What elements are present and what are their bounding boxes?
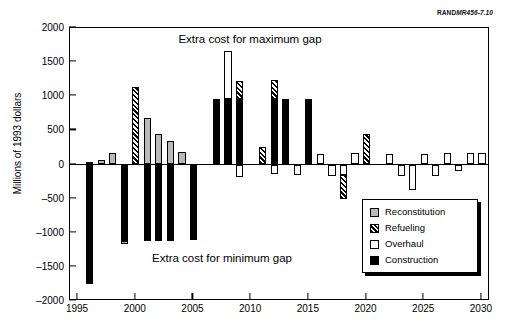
bar-segment-reconstitution xyxy=(167,141,174,165)
bar-segment-construction xyxy=(121,165,128,241)
bar-segment-overhaul xyxy=(317,154,324,164)
y-axis-tick-label: 1000 xyxy=(42,90,64,101)
bar-segment-construction xyxy=(271,99,278,165)
y-axis-tick-label: 0 xyxy=(58,158,64,169)
bar-segment-overhaul xyxy=(271,165,278,175)
y-axis-tick xyxy=(69,26,76,27)
annotation-minimum-gap: Extra cost for minimum gap xyxy=(152,252,292,264)
chart-figure: RANDMR456-7.10 –2000–1500–1000–500050010… xyxy=(0,0,511,331)
y-axis-tick xyxy=(69,61,76,62)
bar-segment-refueling xyxy=(132,87,139,164)
legend-label-construction: Construction xyxy=(385,255,438,265)
chart-legend: ReconstitutionRefuelingOverhaulConstruct… xyxy=(362,199,478,273)
bar-segment-refueling xyxy=(236,81,243,99)
legend-item-overhaul: Overhaul xyxy=(370,236,477,252)
bar-segment-overhaul xyxy=(351,153,358,165)
x-axis-tick-label: 2005 xyxy=(181,303,203,314)
bar-segment-construction xyxy=(155,165,162,241)
bar-segment-refueling xyxy=(259,147,266,164)
bar-segment-construction xyxy=(86,165,93,284)
x-axis-tick xyxy=(134,293,135,300)
x-axis-tick xyxy=(423,293,424,300)
legend-label-refueling: Refueling xyxy=(385,223,425,233)
bar-segment-overhaul xyxy=(432,165,439,177)
bar-segment-overhaul xyxy=(294,165,301,176)
bar-segment-overhaul xyxy=(398,165,405,177)
legend-swatch-overhaul xyxy=(370,240,379,249)
y-axis-tick-label: –500 xyxy=(42,192,64,203)
y-axis-tick xyxy=(69,129,76,130)
legend-label-overhaul: Overhaul xyxy=(385,239,424,249)
bar-segment-reconstitution xyxy=(109,153,116,165)
y-axis-tick xyxy=(69,265,76,266)
x-axis-tick-label: 2015 xyxy=(297,303,319,314)
x-axis-tick-label: 2025 xyxy=(412,303,434,314)
x-axis-tick xyxy=(250,293,251,300)
x-axis-tick xyxy=(192,293,193,300)
bar-segment-overhaul xyxy=(467,153,474,164)
x-axis-tick xyxy=(365,293,366,300)
bar-segment-overhaul xyxy=(478,153,485,165)
y-axis-tick xyxy=(69,95,76,96)
legend-label-reconstitution: Reconstitution xyxy=(385,207,445,217)
credit-rand: RAND xyxy=(437,9,456,16)
bar-segment-construction xyxy=(305,99,312,165)
x-axis-tick-label: 2030 xyxy=(470,303,492,314)
x-axis-tick-label: 2000 xyxy=(124,303,146,314)
y-axis-tick xyxy=(69,197,76,198)
y-axis-tick xyxy=(69,163,76,164)
legend-swatch-reconstitution xyxy=(370,208,379,217)
bar-segment-refueling xyxy=(340,175,347,199)
legend-item-refueling: Refueling xyxy=(370,220,477,236)
x-axis-tick xyxy=(76,293,77,300)
bar-segment-reconstitution xyxy=(178,152,185,165)
bar-segment-overhaul xyxy=(421,154,428,165)
x-axis-tick-label: 1995 xyxy=(66,303,88,314)
figure-credit: RANDMR456-7.10 xyxy=(437,9,493,16)
y-axis-tick-label: 500 xyxy=(47,124,64,135)
y-axis-labels: –2000–1500–1000–5000500100015002000 xyxy=(0,0,64,331)
bar-segment-construction xyxy=(282,99,289,164)
y-axis-tick xyxy=(69,231,76,232)
bar-segment-overhaul xyxy=(236,165,243,178)
annotation-maximum-gap: Extra cost for maximum gap xyxy=(178,33,321,45)
credit-number: MR456-7.10 xyxy=(456,9,493,16)
bar-segment-reconstitution xyxy=(155,134,162,165)
bar-segment-construction xyxy=(190,165,197,241)
y-axis-tick-label: 1500 xyxy=(42,56,64,67)
bar-segment-overhaul xyxy=(455,165,462,171)
bar-segment-overhaul xyxy=(224,51,231,99)
bar-segment-reconstitution xyxy=(98,160,105,164)
bar-segment-refueling xyxy=(271,80,278,99)
bar-segment-construction xyxy=(167,165,174,241)
bar-segment-overhaul xyxy=(328,165,335,177)
x-axis-tick xyxy=(307,293,308,300)
bar-segment-overhaul xyxy=(409,165,416,190)
bar-segment-construction xyxy=(224,99,231,164)
x-axis-tick xyxy=(480,293,481,300)
bar-segment-overhaul xyxy=(386,154,393,164)
legend-swatch-construction xyxy=(370,256,379,265)
x-axis-tick-label: 2020 xyxy=(354,303,376,314)
bar-segment-construction xyxy=(213,99,220,165)
y-axis-tick-label: –1500 xyxy=(36,260,64,271)
y-axis-tick xyxy=(69,299,76,300)
bar-segment-overhaul xyxy=(340,165,347,176)
y-axis-title: Millions of 1993 dollars xyxy=(12,44,23,244)
bar-segment-refueling xyxy=(363,134,370,164)
bar-segment-construction xyxy=(236,99,243,165)
legend-swatch-refueling xyxy=(370,224,379,233)
y-axis-tick-label: 2000 xyxy=(42,22,64,33)
bar-segment-overhaul xyxy=(444,153,451,165)
bar-segment-reconstitution xyxy=(121,241,128,244)
y-axis-tick-label: –2000 xyxy=(36,295,64,306)
y-axis-tick-label: –1000 xyxy=(36,226,64,237)
x-axis-tick-label: 2010 xyxy=(239,303,261,314)
legend-item-reconstitution: Reconstitution xyxy=(370,204,477,220)
legend-item-construction: Construction xyxy=(370,252,477,268)
bar-segment-construction xyxy=(144,165,151,241)
bar-segment-reconstitution xyxy=(144,118,151,165)
